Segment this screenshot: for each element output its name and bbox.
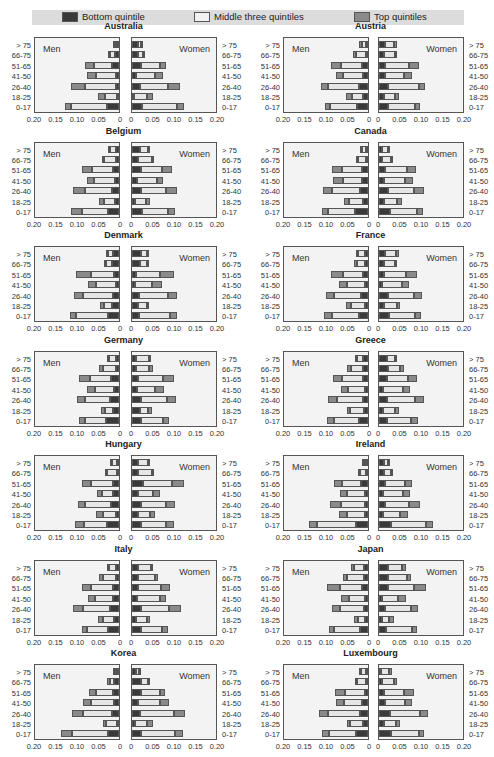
bar-women-0-17	[379, 103, 420, 110]
bottom-quintile-segment	[110, 396, 119, 403]
x-tick-label: 0.10	[69, 324, 85, 333]
top-quintile-segment	[155, 574, 158, 581]
bottom-quintile-segment	[116, 511, 119, 518]
bar-men-51-65	[82, 480, 119, 487]
top-quintile-segment	[160, 689, 165, 696]
bar-women-18-25	[379, 511, 408, 518]
x-tick-label: 0	[123, 324, 139, 333]
middle-quintiles-segment	[330, 103, 357, 110]
top-quintile-segment	[147, 93, 153, 100]
age-label-left: 18-25	[7, 93, 31, 102]
middle-quintiles-segment	[328, 83, 358, 90]
age-label-left: > 75	[7, 355, 31, 364]
age-label-left: 51-65	[256, 480, 280, 489]
x-tick-label: 0.10	[413, 324, 429, 333]
bottom-quintile-segment	[366, 146, 368, 153]
top-quintile-segment	[148, 678, 150, 685]
country-chart-ireland: Ireland> 75> 7566-7566-7551-6551-6541-50…	[247, 439, 494, 544]
bottom-quintile-segment	[116, 355, 119, 362]
bottom-quintile-segment	[362, 62, 368, 69]
country-chart-germany: Germany> 75> 7566-7566-7551-6551-6541-50…	[0, 335, 247, 440]
bar-men--75	[356, 250, 368, 257]
bottom-quintile-segment	[114, 699, 119, 706]
age-label-right: 26-40	[469, 605, 488, 614]
women-panel: Women	[378, 455, 464, 531]
women-label: Women	[426, 671, 457, 681]
bottom-quintile-segment	[115, 198, 119, 205]
chart-title: Ireland	[247, 439, 494, 449]
age-label-left: 18-25	[7, 302, 31, 311]
x-tick-label: 0.05	[392, 742, 408, 751]
x-tick-label: 0	[123, 638, 139, 647]
middle-quintiles-segment	[382, 156, 391, 163]
top-quintile-segment	[407, 166, 416, 173]
middle-quintiles-segment	[104, 156, 116, 163]
age-label-left: > 75	[7, 668, 31, 677]
bar-women-51-65	[379, 375, 417, 382]
age-label-right: 51-65	[222, 271, 241, 280]
top-quintile-segment	[73, 187, 86, 194]
middle-quintiles-segment	[384, 302, 397, 309]
bottom-quintile-segment	[363, 72, 368, 79]
x-tick-label: 0.20	[456, 429, 472, 438]
bar-women-0-17	[132, 208, 175, 215]
bar-men-0-17	[65, 103, 119, 110]
top-quintile-segment	[71, 83, 85, 90]
bottom-quintile-segment	[132, 417, 141, 424]
top-quintile-segment	[78, 501, 86, 508]
bottom-quintile-segment	[365, 302, 368, 309]
x-tick-label: 0.05	[91, 429, 107, 438]
age-label-left: 26-40	[256, 187, 280, 196]
top-quintile-segment	[405, 699, 411, 706]
x-tick-label: 0.15	[48, 638, 64, 647]
age-label-left: 41-50	[7, 490, 31, 499]
age-label-left: > 75	[256, 668, 280, 677]
top-quintile-segment	[149, 365, 152, 372]
bar-women--75	[379, 146, 390, 153]
age-label-left: 51-65	[7, 62, 31, 71]
x-tick-label: 0.20	[209, 533, 225, 542]
age-label-right: 0-17	[469, 208, 484, 217]
bar-women--75	[379, 564, 406, 571]
bottom-quintile-segment	[132, 103, 142, 110]
middle-quintiles-segment	[390, 208, 417, 215]
women-label: Women	[426, 44, 457, 54]
age-label-right: 26-40	[222, 501, 241, 510]
middle-quintiles-segment	[96, 689, 113, 696]
age-label-right: 41-50	[222, 281, 241, 290]
age-label-left: 26-40	[256, 605, 280, 614]
x-tick-label: 0.15	[297, 742, 313, 751]
age-label-left: 41-50	[256, 490, 280, 499]
middle-quintiles-segment	[383, 490, 403, 497]
top-quintile-segment	[339, 511, 347, 518]
x-tick-label: 0.15	[188, 638, 204, 647]
age-label-left: 41-50	[7, 699, 31, 708]
bottom-quintile-segment	[113, 595, 119, 602]
bar-men-18-25	[101, 407, 119, 414]
age-label-right: 26-40	[222, 83, 241, 92]
country-chart-france: France> 75> 7566-7566-7551-6551-6541-504…	[247, 230, 494, 335]
bar-women-18-25	[379, 302, 401, 309]
x-tick-label: 0.10	[166, 324, 182, 333]
middle-quintiles-segment	[91, 584, 113, 591]
x-tick-label: 0.15	[297, 533, 313, 542]
bottom-quintile-segment	[362, 166, 368, 173]
bar-women-51-65	[132, 689, 165, 696]
age-label-right: 66-75	[469, 156, 488, 165]
x-tick-label: 0.05	[392, 324, 408, 333]
age-label-left: 18-25	[7, 720, 31, 729]
bar-women-26-40	[132, 187, 177, 194]
bottom-quintile-segment	[379, 312, 389, 319]
bar-women-26-40	[379, 83, 425, 90]
x-tick-label: 0.05	[145, 115, 161, 124]
bottom-quintile-segment	[379, 365, 388, 372]
country-chart-denmark: Denmark> 75> 7566-7566-7551-6551-6541-50…	[0, 230, 247, 335]
bar-women-51-65	[379, 62, 419, 69]
x-tick-label: 0	[370, 324, 386, 333]
bottom-quintile-segment	[356, 521, 368, 528]
x-tick-label: 0.15	[188, 429, 204, 438]
men-label: Men	[43, 44, 61, 54]
bottom-quintile-segment	[363, 271, 368, 278]
country-chart-japan: Japan> 75> 7566-7566-7551-6551-6541-5041…	[247, 544, 494, 649]
middle-quintiles-segment	[384, 689, 404, 696]
